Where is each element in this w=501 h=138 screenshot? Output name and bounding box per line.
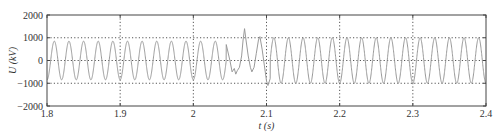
y-tick-label: 1000 [23,32,43,43]
x-tick-label: 1.9 [114,108,127,119]
y-tick-label: 2000 [23,10,43,21]
voltage-chart: 1.81.922.12.22.32.4 200010000−1000−2000 … [0,0,501,138]
grid-lines [47,15,486,106]
x-tick-labels: 1.81.922.12.22.32.4 [41,108,493,119]
y-tick-labels: 200010000−1000−2000 [17,10,43,112]
x-tick-label: 2.3 [407,108,420,119]
x-tick-label: 2.2 [333,108,346,119]
y-tick-label: −2000 [17,101,43,112]
y-tick-label: 0 [38,55,43,66]
y-axis-label: U (kV) [7,46,19,74]
x-tick-label: 2.1 [260,108,273,119]
x-tick-label: 2.4 [480,108,493,119]
x-axis-label: t (s) [259,120,276,132]
y-tick-label: −1000 [17,78,43,89]
x-tick-label: 2 [191,108,196,119]
